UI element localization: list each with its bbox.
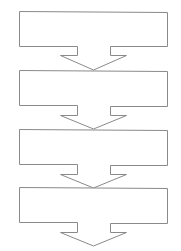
flowchart-shapes — [0, 0, 181, 251]
step-2-box-arrow — [20, 71, 168, 130]
step-4-box-arrow — [20, 188, 168, 247]
flowchart — [0, 0, 181, 251]
step-3-box-arrow — [20, 130, 168, 189]
step-1-box-arrow — [20, 12, 168, 71]
